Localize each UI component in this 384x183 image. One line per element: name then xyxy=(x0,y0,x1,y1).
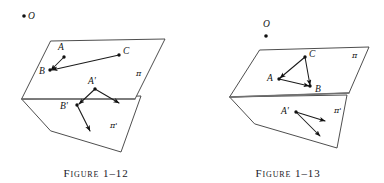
point-b-1-12 xyxy=(48,68,51,71)
label-plane-pi-prime-1-12: π' xyxy=(109,121,117,130)
point-a-prime-1-13 xyxy=(294,110,297,113)
point-c-1-12 xyxy=(117,53,120,56)
point-a-prime-1-12 xyxy=(93,87,96,90)
label-plane-pi-1-13: π xyxy=(351,51,358,60)
point-b-1-13 xyxy=(308,84,311,87)
figure-panel-1-13: C A B A' π π' O Figure 1–13 xyxy=(192,0,384,183)
point-a-1-12 xyxy=(62,55,65,58)
label-b-1-12: B xyxy=(39,66,45,76)
figure-caption-1-12: Figure 1–12 xyxy=(0,167,192,179)
label-a-1-12: A xyxy=(57,42,64,52)
figure-diagram-1-12: A B C A' B' π π' O xyxy=(0,0,192,160)
point-a-1-13 xyxy=(277,77,280,80)
figure-diagram-1-13: C A B A' π π' O xyxy=(192,0,384,160)
figure-caption-1-13: Figure 1–13 xyxy=(192,167,384,179)
point-c-1-13 xyxy=(303,55,306,58)
lower-plane-fill-1-13 xyxy=(230,95,347,148)
label-o-1-12: O xyxy=(28,11,35,21)
label-c-1-13: C xyxy=(309,49,316,59)
figure-panel-1-12: A B C A' B' π π' O Figure 1–12 xyxy=(0,0,192,183)
lower-plane-fill-1-12 xyxy=(22,96,141,152)
label-a-1-13: A xyxy=(266,73,273,83)
upper-plane-fill-1-13 xyxy=(230,47,369,97)
label-o-1-13: O xyxy=(263,19,270,29)
point-b-prime-1-12 xyxy=(75,103,78,106)
label-a-prime-1-12: A' xyxy=(87,76,97,86)
label-a-prime-1-13: A' xyxy=(280,106,290,116)
label-b-prime-1-12: B' xyxy=(60,101,69,111)
point-o-dot-1-13 xyxy=(264,34,268,38)
label-c-1-12: C xyxy=(123,46,130,56)
label-plane-pi-1-12: π xyxy=(135,69,142,78)
point-o-dot-1-12 xyxy=(22,14,26,18)
label-b-1-13: B xyxy=(315,84,321,94)
label-plane-pi-prime-1-13: π' xyxy=(333,106,341,115)
figure-sheet: A B C A' B' π π' O Figure 1–12 xyxy=(0,0,384,183)
